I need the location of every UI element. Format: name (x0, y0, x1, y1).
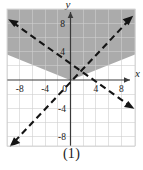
y-tick-label-4: 4 (60, 47, 65, 57)
coordinate-plane: y x -8 -4 0 4 8 8 4 -4 -8 (0, 0, 143, 150)
y-axis-label: y (65, 0, 71, 10)
x-tick-label--8: -8 (16, 84, 24, 94)
y-tick-label--4: -4 (58, 104, 66, 114)
x-tick-label--4: -4 (41, 84, 49, 94)
x-tick-label-8: 8 (119, 84, 124, 94)
y-tick-label-8: 8 (60, 19, 65, 29)
origin-label: 0 (62, 84, 67, 94)
figure-container: y x -8 -4 0 4 8 8 4 -4 -8 (1) (0, 0, 143, 170)
figure-caption: (1) (0, 146, 143, 162)
y-tick-label--8: -8 (58, 132, 66, 142)
graph-svg: y x -8 -4 0 4 8 8 4 -4 -8 (0, 0, 143, 150)
x-tick-label-4: 4 (94, 84, 99, 94)
